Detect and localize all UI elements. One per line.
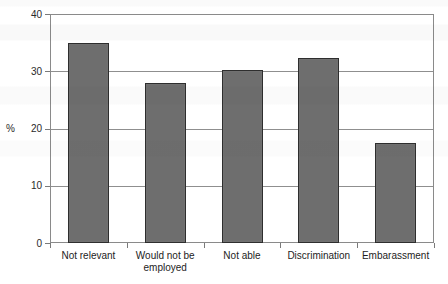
x-axis-labels: Not relevantWould not beemployedNot able… xyxy=(50,250,434,284)
x-tick-mark-4 xyxy=(357,243,358,248)
y-tick-label-10: 10 xyxy=(0,180,50,192)
bars-layer xyxy=(50,14,434,243)
x-tick-mark-1 xyxy=(127,243,128,248)
x-axis-label-2-line-0: Not able xyxy=(198,250,287,262)
y-tick-label-0: 0 xyxy=(0,237,50,249)
bar-3 xyxy=(298,58,339,243)
x-axis-label-2: Not able xyxy=(198,250,287,262)
y-tick-label-40: 40 xyxy=(0,8,50,20)
x-axis-label-1: Would not beemployed xyxy=(121,250,210,274)
x-axis-label-4-line-0: Embarassment xyxy=(351,250,440,262)
x-axis-label-4: Embarassment xyxy=(351,250,440,262)
bar-0 xyxy=(68,43,109,243)
x-tick-mark-2 xyxy=(204,243,205,248)
x-axis-label-1-line-0: Would not be xyxy=(121,250,210,262)
bar-1 xyxy=(145,83,186,243)
y-tick-label-30: 30 xyxy=(0,65,50,77)
y-tick-label-20: 20 xyxy=(0,123,50,135)
x-axis-label-3: Discrimination xyxy=(274,250,363,262)
bar-4 xyxy=(375,143,416,243)
bar-chart: % 010203040 Not relevantWould not beempl… xyxy=(0,0,448,284)
x-tick-mark-3 xyxy=(280,243,281,248)
x-axis-label-0-line-0: Not relevant xyxy=(44,250,133,262)
x-axis-label-0: Not relevant xyxy=(44,250,133,262)
x-tick-mark-5 xyxy=(434,243,435,248)
bar-2 xyxy=(222,70,263,243)
x-axis-label-1-line-1: employed xyxy=(121,262,210,274)
x-axis-label-3-line-0: Discrimination xyxy=(274,250,363,262)
x-tick-mark-0 xyxy=(50,243,51,248)
